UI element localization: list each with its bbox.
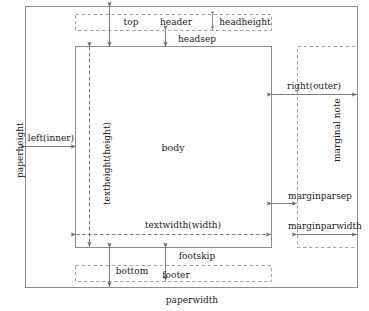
- label-marginparwidth: marginparwidth: [288, 222, 362, 231]
- label-bottom: bottom: [116, 267, 148, 276]
- label-left-inner: left(inner): [28, 134, 74, 143]
- label-paperheight: paperheight: [16, 122, 25, 178]
- label-textwidth: textwidth(width): [145, 221, 221, 230]
- label-paperwidth: paperwidth: [166, 296, 218, 305]
- label-headheight: headheight: [219, 18, 270, 27]
- label-marginparsep: marginparsep: [288, 192, 352, 201]
- page-layout-diagram: top header headheight headsep right(oute…: [0, 0, 369, 311]
- label-textheight: textheight(height): [103, 122, 112, 205]
- label-right-outer: right(outer): [287, 82, 341, 91]
- label-headsep: headsep: [178, 35, 216, 44]
- label-header: header: [160, 18, 192, 27]
- label-top: top: [124, 18, 139, 27]
- label-footskip: footskip: [179, 252, 216, 261]
- label-footer: footer: [162, 271, 189, 280]
- label-marginal-note: marginal note: [333, 98, 342, 162]
- marginal-note-box: [298, 47, 358, 248]
- diagram-canvas: [0, 0, 369, 311]
- label-body: body: [161, 143, 184, 153]
